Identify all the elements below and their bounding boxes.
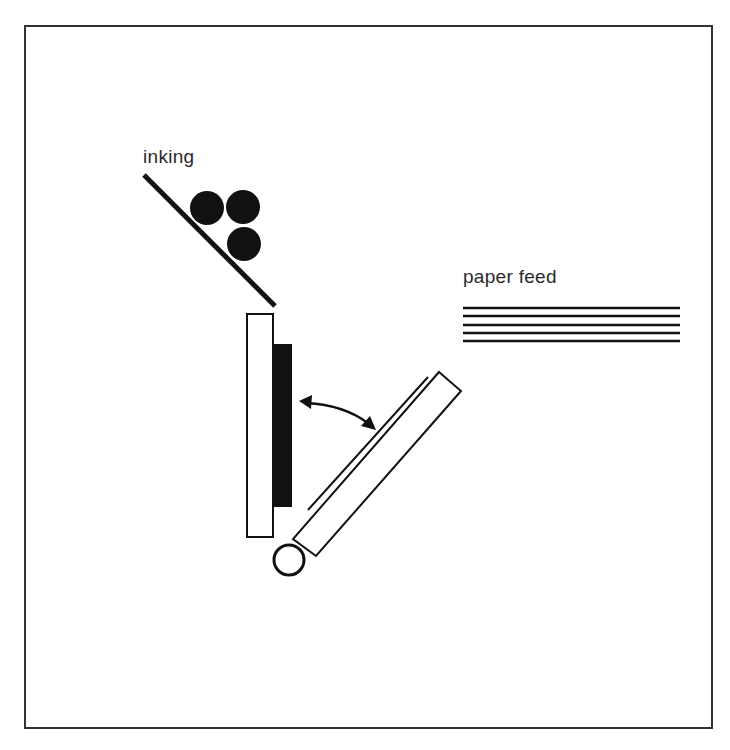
swing-arrow-icon <box>299 395 376 430</box>
inking-rollers <box>190 190 261 261</box>
roller-icon <box>190 191 224 225</box>
platen <box>293 372 461 556</box>
bed-plate <box>247 314 273 537</box>
paper-stack <box>463 308 680 341</box>
press-diagram <box>0 0 730 750</box>
roller-icon <box>227 227 261 261</box>
pivot-icon <box>274 545 304 575</box>
roller-icon <box>226 190 260 224</box>
type-forme <box>273 344 292 507</box>
